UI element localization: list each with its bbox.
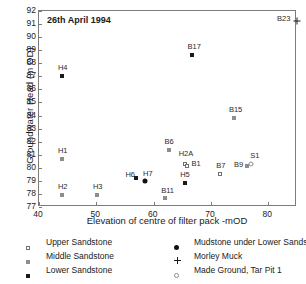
open-square-legend-icon	[26, 242, 30, 252]
grey-square-marker-icon	[26, 260, 30, 264]
y-tick-mark	[39, 194, 42, 195]
x-tick-mark	[96, 202, 97, 205]
plus-marker-icon	[174, 257, 181, 264]
open-circle-marker-icon	[174, 273, 179, 278]
plot-area: 26th April 1994 H2AB1B7H1H2H3B11B6B15B9H…	[38, 10, 296, 206]
data-point-label: H3	[93, 183, 103, 191]
filled-square-legend-icon	[26, 270, 30, 280]
chart-title: 26th April 1994	[47, 15, 111, 25]
y-tick-mark	[39, 116, 42, 117]
data-point-label: B23	[277, 15, 290, 23]
y-tick-mark	[39, 63, 42, 64]
data-point-label: B17	[188, 43, 201, 51]
plus-legend-icon	[174, 256, 181, 266]
data-point-label: H6	[125, 171, 135, 179]
grey-square-marker-icon	[60, 157, 64, 161]
data-point-label: H1	[58, 147, 68, 155]
y-tick-mark	[39, 24, 42, 25]
data-point-label: B7	[216, 162, 225, 170]
y-tick-mark	[39, 102, 42, 103]
legend: Upper SandstoneMiddle SandstoneLower San…	[26, 236, 301, 280]
y-tick-mark	[39, 89, 42, 90]
grey-square-legend-icon	[26, 256, 30, 266]
filled-square-marker-icon	[134, 176, 138, 180]
y-tick-mark	[39, 181, 42, 182]
y-tick-mark	[39, 155, 42, 156]
filled-square-marker-icon	[60, 74, 64, 78]
legend-item-label: Mudstone under Lower Sandstone	[194, 236, 306, 249]
y-tick-mark	[39, 168, 42, 169]
y-tick-mark	[39, 11, 42, 12]
open-circle-marker-icon	[249, 161, 254, 166]
open-square-marker-icon	[185, 164, 189, 168]
grey-square-marker-icon	[232, 116, 236, 120]
open-square-marker-icon	[218, 172, 222, 176]
data-point-label: H4	[58, 64, 68, 72]
data-point-label: B15	[229, 106, 242, 114]
x-tick-mark	[154, 202, 155, 205]
grey-square-marker-icon	[167, 148, 171, 152]
data-point-label: H7	[143, 170, 153, 178]
filled-square-marker-icon	[190, 53, 194, 57]
x-tick-mark	[268, 202, 269, 205]
filled-circle-legend-icon	[174, 242, 179, 252]
data-point-label: H2	[58, 183, 68, 191]
x-tick-mark	[211, 202, 212, 205]
filled-circle-marker-icon	[143, 178, 148, 183]
filled-circle-marker-icon	[174, 245, 179, 250]
legend-item-label: Morley Muck	[194, 250, 242, 263]
open-square-marker-icon	[26, 246, 30, 250]
data-point-label: B11	[161, 187, 174, 195]
x-axis-title: Elevation of centre of filter pack -mOD	[38, 215, 296, 226]
data-point-label: B9	[234, 161, 243, 169]
legend-item-label: Upper Sandstone	[46, 236, 112, 249]
data-point-label: H5	[180, 171, 190, 179]
data-point-label: S1	[250, 152, 259, 160]
data-point-label: B1	[191, 160, 200, 168]
grey-square-marker-icon	[163, 196, 167, 200]
legend-item-label: Made Ground, Tar Pit 1	[194, 264, 282, 277]
y-tick-mark	[39, 37, 42, 38]
legend-item-label: Middle Sandstone	[46, 250, 114, 263]
grey-square-marker-icon	[95, 193, 99, 197]
y-tick-mark	[39, 76, 42, 77]
data-point-label: B6	[165, 138, 174, 146]
filled-square-marker-icon	[183, 181, 187, 185]
open-circle-legend-icon	[174, 270, 179, 280]
x-tick-mark	[39, 202, 40, 205]
plus-marker-icon	[294, 18, 301, 25]
y-tick-mark	[39, 142, 42, 143]
legend-item-label: Lower Sandstone	[46, 264, 112, 277]
y-tick-mark	[39, 50, 42, 51]
scatter-chart-figure: Groundwater Head (m OD) 7778798081828384…	[0, 0, 306, 284]
grey-square-marker-icon	[60, 193, 64, 197]
y-tick-mark	[39, 207, 42, 208]
data-point-label: H2A	[179, 150, 194, 158]
y-tick-mark	[39, 129, 42, 130]
filled-square-marker-icon	[26, 274, 30, 278]
